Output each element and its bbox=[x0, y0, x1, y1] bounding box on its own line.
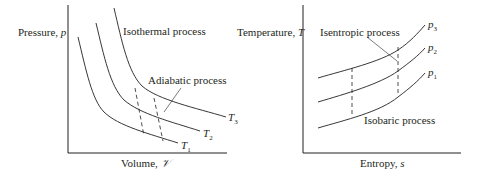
ts-diagram: Temperature, T Entropy, s Isentropic pro… bbox=[237, 5, 461, 169]
adiabatic-leader bbox=[164, 88, 181, 112]
adiabatic-annotation: Adiabatic process bbox=[148, 74, 227, 86]
thermodynamic-diagrams: Pressure, p Volume, 𝒱 Isothermal process… bbox=[0, 0, 479, 179]
label-t1: T1 bbox=[181, 139, 191, 154]
isotherm-t1 bbox=[78, 37, 178, 143]
label-p2: p2 bbox=[427, 41, 438, 56]
isothermal-annotation: Isothermal process bbox=[123, 25, 206, 37]
isobar-p2 bbox=[318, 48, 425, 102]
pv-y-axis-label: Pressure, p bbox=[18, 26, 67, 38]
pv-diagram: Pressure, p Volume, 𝒱 Isothermal process… bbox=[18, 5, 238, 169]
ts-y-axis-label: Temperature, T bbox=[237, 26, 305, 38]
label-t2: T2 bbox=[203, 127, 213, 142]
isobaric-annotation: Isobaric process bbox=[364, 114, 435, 126]
ts-x-axis-label: Entropy, s bbox=[360, 157, 405, 169]
isentropic-leader bbox=[367, 37, 397, 61]
label-p1: p1 bbox=[427, 66, 438, 81]
label-p3: p3 bbox=[427, 18, 438, 33]
label-t3: T3 bbox=[228, 111, 238, 126]
pv-x-axis-label: Volume, 𝒱 bbox=[121, 157, 174, 169]
isentropic-annotation: Isentropic process bbox=[320, 26, 400, 38]
adiabat-1 bbox=[135, 88, 144, 136]
adiabat-2 bbox=[154, 98, 163, 141]
